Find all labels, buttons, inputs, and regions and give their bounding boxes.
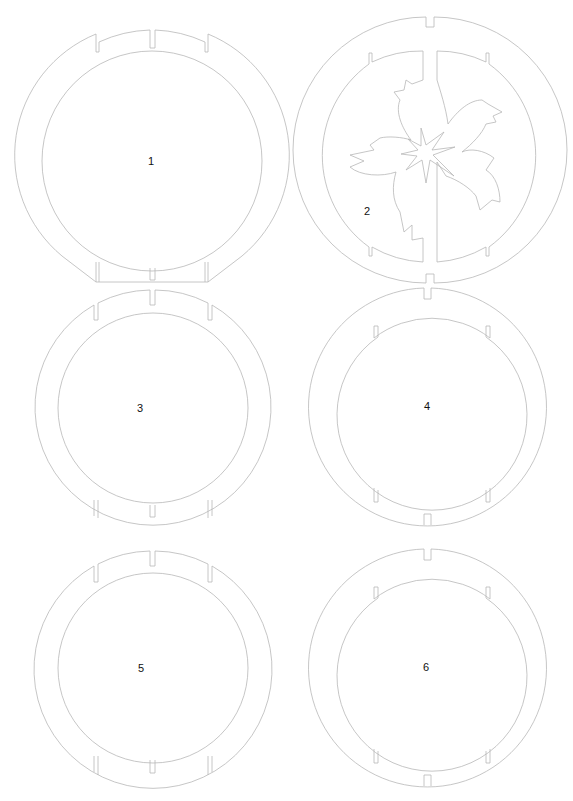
ring-2-inner-right-half bbox=[437, 51, 536, 262]
piece-label-5: 5 bbox=[138, 662, 144, 674]
ring-2-top-center-notch bbox=[426, 17, 434, 27]
ring-5-inner-circle bbox=[58, 573, 248, 763]
ring-1-bottom-slot-right bbox=[205, 262, 208, 282]
piece-label-4: 4 bbox=[424, 400, 430, 412]
ring-piece-5: 5 bbox=[34, 551, 272, 788]
ring-6-inner-bottom-tabs bbox=[374, 749, 490, 763]
ring-2-bottom-center-notch bbox=[426, 274, 434, 283]
ring-4-inner-bottom-tabs bbox=[374, 488, 490, 502]
sakura-flower-outline bbox=[350, 51, 502, 240]
ring-2-inner-left-half bbox=[322, 51, 423, 262]
ring-5-bottom-slots bbox=[94, 756, 212, 775]
piece-label-3: 3 bbox=[137, 402, 143, 414]
ring-piece-2: 2 bbox=[293, 17, 567, 283]
ring-3-outer-contour bbox=[35, 290, 271, 525]
cutting-template-sheet: 1 2 3 4 5 bbox=[0, 0, 573, 801]
ring-piece-6: 6 bbox=[309, 549, 547, 787]
ring-piece-1: 1 bbox=[15, 30, 290, 282]
ring-piece-3: 3 bbox=[35, 290, 271, 525]
ring-4-inner-contour bbox=[337, 318, 527, 510]
ring-3-inner-circle bbox=[58, 313, 248, 503]
piece-label-2: 2 bbox=[364, 205, 370, 217]
ring-2-outer-left-half bbox=[293, 17, 426, 283]
ring-1-bottom-slot-center bbox=[150, 268, 155, 280]
piece-label-6: 6 bbox=[423, 661, 429, 673]
ring-1-bottom-slot-left bbox=[96, 262, 99, 282]
ring-1-top-slot-center bbox=[150, 30, 155, 48]
ring-1-top-slot-left bbox=[96, 34, 99, 52]
sakura-star-center bbox=[401, 128, 455, 183]
ring-1-top-slot-right bbox=[205, 34, 208, 52]
piece-label-1: 1 bbox=[148, 155, 154, 167]
ring-2-outer-right-half bbox=[434, 17, 567, 283]
ring-piece-4: 4 bbox=[309, 288, 547, 526]
ring-6-inner-contour bbox=[337, 579, 527, 771]
ring-5-outer-contour bbox=[34, 551, 272, 788]
